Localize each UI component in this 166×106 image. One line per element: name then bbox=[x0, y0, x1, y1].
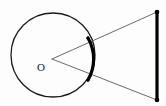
figure-canvas: O bbox=[0, 0, 166, 106]
figure-background bbox=[0, 0, 166, 106]
center-point-label: O bbox=[37, 61, 45, 73]
segment-endpoint-bottom bbox=[155, 98, 160, 103]
arc-tangent-dot-top bbox=[86, 36, 89, 39]
segment-endpoint-top bbox=[155, 10, 160, 15]
arc-tangent-dot-bottom bbox=[86, 78, 89, 81]
geometry-figure: O bbox=[0, 0, 166, 106]
